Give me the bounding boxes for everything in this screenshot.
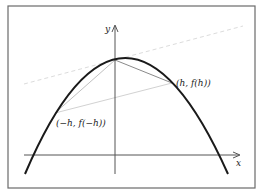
chord-right	[115, 60, 172, 83]
point-label-minus-h: (−h, f(−h))	[56, 118, 106, 128]
dashed-reference-line	[24, 26, 243, 84]
parabola-curve	[25, 58, 228, 174]
parabola-diagram: x y (h, f(h)) (−h, f(−h))	[0, 0, 261, 196]
figure-frame	[8, 6, 255, 188]
x-axis-label: x	[236, 158, 241, 168]
point-label-h: (h, f(h))	[176, 78, 211, 88]
y-axis-label: y	[104, 24, 111, 34]
